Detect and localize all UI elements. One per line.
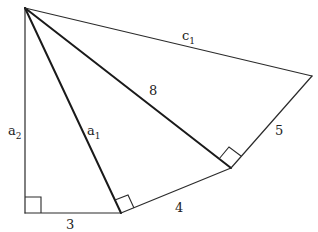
right-angle-marker-d xyxy=(219,147,241,159)
label-a1: a1 xyxy=(87,123,101,141)
label-8: 8 xyxy=(149,83,157,98)
label-a2: a2 xyxy=(8,123,22,141)
label-c1: c1 xyxy=(182,28,195,46)
label-4: 4 xyxy=(175,200,183,215)
segment-a1 xyxy=(25,8,121,213)
right-angle-marker-b xyxy=(25,197,41,213)
label-5: 5 xyxy=(275,123,283,138)
label-3: 3 xyxy=(66,217,74,232)
segment-5 xyxy=(231,76,312,168)
geometry-diagram: a2 a1 8 c1 5 4 3 xyxy=(0,0,318,232)
